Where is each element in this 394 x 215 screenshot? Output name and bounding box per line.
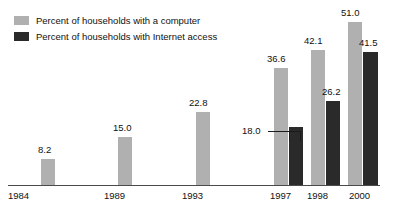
value-label-internet-1997: 18.0 bbox=[242, 126, 261, 136]
value-label-computer-2000: 51.0 bbox=[341, 8, 360, 18]
x-axis-line bbox=[8, 185, 380, 186]
x-tick-1989: 1989 bbox=[104, 190, 125, 201]
bar-computer-1984 bbox=[41, 159, 55, 185]
leader-bracket-18 bbox=[289, 131, 301, 141]
x-tick-1998: 1998 bbox=[307, 190, 328, 201]
value-label-computer-1997: 36.6 bbox=[267, 54, 286, 64]
bar-computer-1998 bbox=[311, 50, 325, 185]
value-label-internet-2000: 41.5 bbox=[359, 38, 378, 48]
leader-line-18 bbox=[268, 131, 290, 132]
plot-area: 8.2 15.0 22.8 36.6 18.0 42.1 26.2 51.0 4… bbox=[0, 0, 394, 215]
value-label-internet-1998: 26.2 bbox=[322, 87, 341, 97]
value-label-computer-1989: 15.0 bbox=[113, 123, 132, 133]
bar-internet-1998 bbox=[326, 101, 340, 185]
x-tick-1997: 1997 bbox=[270, 190, 291, 201]
bar-computer-1993 bbox=[196, 112, 210, 185]
x-tick-1993: 1993 bbox=[182, 190, 203, 201]
bar-chart: Percent of households with a computer Pe… bbox=[0, 0, 394, 215]
bar-internet-2000 bbox=[363, 52, 378, 185]
value-label-computer-1993: 22.8 bbox=[189, 98, 208, 108]
bar-computer-1997 bbox=[274, 68, 288, 185]
value-label-computer-1984: 8.2 bbox=[38, 145, 51, 155]
bar-computer-1989 bbox=[118, 137, 132, 185]
x-tick-1984: 1984 bbox=[8, 190, 29, 201]
value-label-computer-1998: 42.1 bbox=[304, 36, 323, 46]
x-tick-2000: 2000 bbox=[349, 190, 370, 201]
